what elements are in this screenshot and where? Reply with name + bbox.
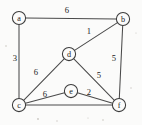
graph-diagram: abcdef 63156562 (0, 0, 142, 125)
graph-node-a: a (12, 11, 25, 24)
edge-weight-c-d: 6 (34, 67, 39, 77)
graph-node-c: c (12, 98, 25, 111)
edge-weight-a-c: 3 (13, 53, 17, 63)
node-label-b: b (121, 15, 125, 24)
node-label-e: e (69, 87, 73, 96)
edge-weight-a-b: 6 (65, 5, 70, 15)
graph-node-e: e (64, 84, 77, 97)
edge-weight-e-f: 2 (87, 87, 91, 97)
edge-weight-b-d: 1 (87, 26, 91, 36)
edge-weight-d-f: 5 (97, 70, 101, 80)
edge-weight-c-e: 6 (43, 89, 48, 99)
graph-edge-b-d (75, 23, 118, 51)
node-label-d: d (67, 50, 71, 59)
graph-node-f: f (112, 98, 125, 111)
graph-node-b: b (116, 12, 129, 25)
graph-edge-a-b (26, 18, 117, 19)
node-label-f: f (118, 101, 121, 110)
node-label-a: a (17, 14, 21, 23)
edge-weight-b-f: 5 (112, 53, 116, 63)
graph-edge-e-f (77, 93, 112, 103)
graph-node-d: d (62, 47, 75, 60)
graph-canvas: abcdef 63156562 (0, 0, 142, 125)
node-label-c: c (17, 101, 21, 110)
graph-edge-b-f (119, 26, 122, 99)
